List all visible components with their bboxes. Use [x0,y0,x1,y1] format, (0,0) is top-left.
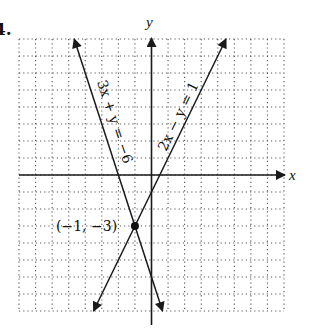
axes [19,38,285,325]
graph-figure: 4. x y 3x + y = −6 2x − y = 1 (−1, −3) [0,0,314,336]
y-axis-label: y [144,14,153,30]
line2-equation-label: 2x − y = 1 [154,79,201,153]
coordinate-plane: 4. x y 3x + y = −6 2x − y = 1 (−1, −3) [0,0,314,336]
annotations [131,222,139,230]
x-axis-label: x [288,167,296,183]
intersection-point [131,222,139,230]
problem-number: 4. [0,19,12,39]
intersection-point-label: (−1, −3) [56,218,117,234]
